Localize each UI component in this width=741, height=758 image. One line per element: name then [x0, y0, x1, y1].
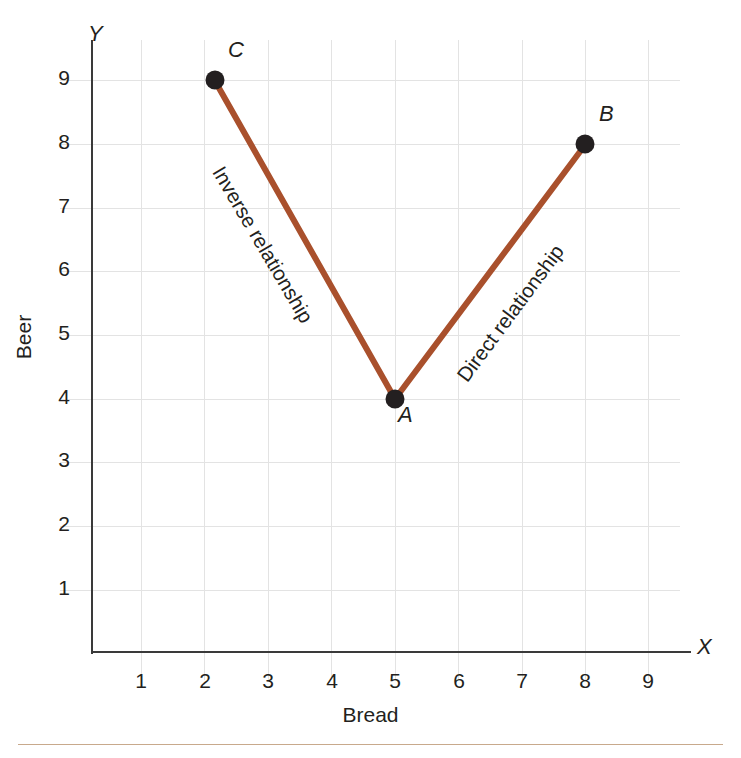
- annotation-inverse-relationship: Inverse relationship: [207, 162, 318, 327]
- x-axis-title: Bread: [0, 703, 741, 727]
- y-tick-label-3: 3: [34, 448, 70, 472]
- grid-line-horizontal-3: [60, 462, 680, 463]
- grid-line-vertical-6: [458, 40, 459, 680]
- y-tick-label-4: 4: [34, 385, 70, 409]
- grid-line-horizontal-8: [60, 144, 680, 145]
- grid-line-horizontal-2: [60, 526, 680, 527]
- y-tick-label-5: 5: [34, 321, 70, 345]
- data-point-label-b: B: [599, 101, 614, 127]
- y-axis-line: [91, 40, 93, 654]
- y-tick-label-2: 2: [34, 512, 70, 536]
- y-axis-title: Beer: [12, 297, 36, 377]
- y-tick-label-9: 9: [34, 66, 70, 90]
- data-point-label-a: A: [398, 402, 413, 428]
- x-tick-label-7: 7: [502, 669, 542, 693]
- grid-line-horizontal-5: [60, 335, 680, 336]
- y-axis-letter: Y: [88, 21, 103, 47]
- y-tick-label-8: 8: [34, 130, 70, 154]
- bottom-divider-rule: [18, 744, 723, 745]
- x-tick-label-6: 6: [439, 669, 479, 693]
- y-tick-label-6: 6: [34, 257, 70, 281]
- grid-line-vertical-7: [522, 40, 523, 680]
- x-tick-label-9: 9: [628, 669, 668, 693]
- grid-line-horizontal-6: [60, 271, 680, 272]
- grid-line-vertical-8: [585, 40, 586, 680]
- grid-line-horizontal-9: [60, 80, 680, 81]
- annotation-direct-relationship: Direct relationship: [452, 240, 569, 386]
- x-tick-label-2: 2: [185, 669, 225, 693]
- grid-line-vertical-3: [268, 40, 269, 680]
- grid-line-vertical-5: [395, 40, 396, 680]
- grid-line-vertical-1: [141, 40, 142, 680]
- x-axis-letter: X: [697, 634, 712, 660]
- grid-line-vertical-4: [331, 40, 332, 680]
- x-axis-line: [91, 651, 691, 653]
- grid-line-vertical-2: [204, 40, 205, 680]
- y-tick-label-7: 7: [34, 194, 70, 218]
- x-tick-label-8: 8: [565, 669, 605, 693]
- x-tick-label-3: 3: [248, 669, 288, 693]
- segment-inverse-relationship: [215, 81, 395, 399]
- grid-line-horizontal-4: [60, 399, 680, 400]
- x-tick-label-4: 4: [312, 669, 352, 693]
- plot-area: [0, 0, 741, 758]
- grid-line-horizontal-1: [60, 590, 680, 591]
- chart-figure: Y X 9 8 7 6 5 4 3 2 1 1 2 3 4 5 6 7 8 9 …: [0, 0, 741, 758]
- data-point-label-c: C: [228, 37, 244, 63]
- x-tick-label-5: 5: [375, 669, 415, 693]
- x-tick-label-1: 1: [121, 669, 161, 693]
- grid-line-vertical-9: [648, 40, 649, 680]
- grid-line-horizontal-7: [60, 208, 680, 209]
- y-tick-label-1: 1: [34, 576, 70, 600]
